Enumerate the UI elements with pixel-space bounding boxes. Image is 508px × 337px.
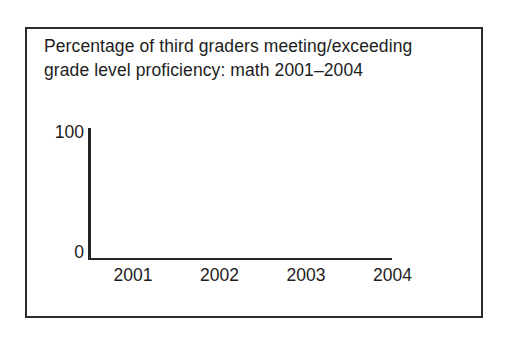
chart-title-line-2: grade level proficiency: math 2001–2004 — [44, 58, 464, 82]
x-axis-tick-label-2004: 2004 — [358, 265, 428, 285]
chart-title: Percentage of third graders meeting/exce… — [44, 34, 464, 82]
figure-root: Percentage of third graders meeting/exce… — [0, 0, 508, 337]
y-axis-tick-label-100: 100 — [38, 124, 84, 142]
x-axis-tick-labels: 2001 2002 2003 2004 — [88, 265, 396, 289]
y-axis-line — [88, 128, 91, 260]
plot-area — [88, 128, 392, 258]
x-axis-tick-label-2001: 2001 — [98, 265, 168, 285]
y-axis-tick-label-0: 0 — [38, 244, 84, 262]
x-axis-tick-label-2003: 2003 — [271, 265, 341, 285]
x-axis-line — [88, 258, 392, 261]
x-axis-tick-label-2002: 2002 — [185, 265, 255, 285]
chart-title-line-1: Percentage of third graders meeting/exce… — [44, 34, 464, 58]
